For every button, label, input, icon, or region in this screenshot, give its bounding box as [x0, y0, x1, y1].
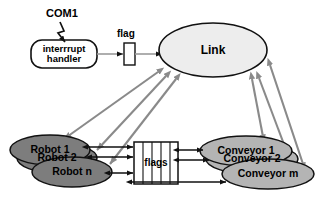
flag-label: flag [117, 28, 135, 39]
link-ellipse-shape [159, 23, 267, 77]
conveyor-m-ellipse-shape [222, 159, 314, 189]
com1-label: COM1 [46, 7, 78, 19]
interrupt-handler-shape [31, 40, 97, 68]
com1-zigzag-arrow [58, 22, 65, 42]
diagram-canvas: COM1 interrrupt handler flag Link Robot … [0, 0, 328, 207]
robot-n-ellipse-shape [32, 157, 112, 187]
diagram-vector-layer [0, 0, 328, 207]
flags-box-shape [134, 142, 178, 184]
flag-box-shape [124, 43, 135, 65]
